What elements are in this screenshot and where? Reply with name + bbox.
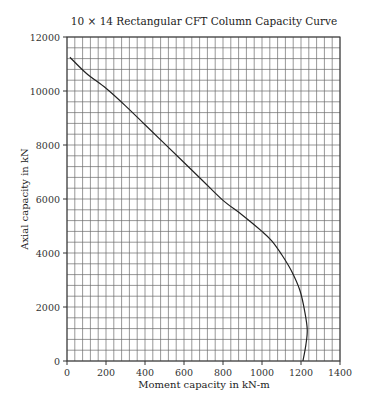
x-axis-label: Moment capacity in kN-m xyxy=(138,379,270,390)
grid-lines xyxy=(67,37,340,361)
y-tick-label: 0 xyxy=(54,356,60,367)
y-tick-labels: 020004000600080001000012000 xyxy=(30,32,60,367)
y-tick-label: 4000 xyxy=(36,248,60,259)
y-tick-label: 12000 xyxy=(30,32,60,43)
x-tick-label: 0 xyxy=(64,367,70,378)
axis-ticks xyxy=(63,37,340,365)
x-tick-label: 800 xyxy=(214,367,232,378)
chart-title: 10 × 14 Rectangular CFT Column Capacity … xyxy=(71,15,337,27)
x-tick-label: 1200 xyxy=(289,367,313,378)
x-tick-label: 1400 xyxy=(328,367,352,378)
x-tick-label: 200 xyxy=(97,367,115,378)
y-axis-label: Axial capacity in kN xyxy=(19,148,30,251)
capacity-chart: 10 × 14 Rectangular CFT Column Capacity … xyxy=(0,0,368,414)
capacity-curve xyxy=(70,57,307,361)
y-tick-label: 10000 xyxy=(30,86,60,97)
y-tick-label: 2000 xyxy=(36,302,60,313)
y-tick-label: 8000 xyxy=(36,140,60,151)
x-tick-label: 600 xyxy=(175,367,193,378)
x-tick-label: 1000 xyxy=(250,367,274,378)
y-tick-label: 6000 xyxy=(36,194,60,205)
x-tick-label: 400 xyxy=(136,367,154,378)
x-tick-labels: 0200400600800100012001400 xyxy=(64,367,352,378)
